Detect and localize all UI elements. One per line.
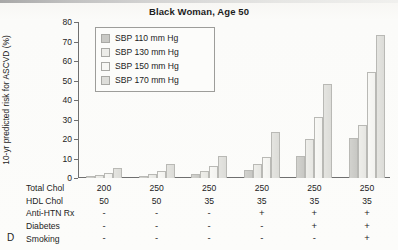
legend-swatch-icon: [101, 76, 110, 85]
legend-swatch-icon: [101, 62, 110, 71]
legend-item-label: SBP 170 mm Hg: [115, 75, 179, 85]
table-cell: -: [208, 220, 211, 233]
table-cell: -: [260, 232, 263, 245]
x-axis-line: [78, 177, 390, 178]
covariate-table: Total Chol200250250250250250HDL Chol5050…: [0, 182, 398, 245]
y-tick-label: 80: [63, 17, 72, 27]
y-axis-label: 10-yr predicted risk for ASCVD (%): [1, 25, 12, 175]
table-cell: 35: [310, 195, 320, 208]
table-cell: +: [364, 220, 370, 233]
y-tick-label: 10: [63, 154, 72, 164]
legend-item-label: SBP 130 mm Hg: [115, 47, 179, 57]
bar-group: [349, 22, 385, 178]
table-row-cells: -----+: [78, 232, 398, 245]
y-tick-mark: [74, 61, 78, 62]
bar: [253, 164, 262, 178]
legend-item[interactable]: SBP 130 mm Hg: [101, 45, 209, 59]
bar: [148, 174, 157, 178]
bar: [157, 171, 166, 178]
legend-item[interactable]: SBP 110 mm Hg: [101, 31, 209, 45]
table-row: HDL Chol505035353535: [0, 195, 398, 208]
y-tick-label: 30: [63, 115, 72, 125]
table-cell: 50: [152, 195, 162, 208]
y-tick-mark: [74, 120, 78, 121]
panel-letter: D: [7, 232, 14, 243]
table-row: Anti-HTN Rx---+++: [0, 207, 398, 220]
bar-group: [296, 22, 332, 178]
table-cell: +: [312, 207, 318, 220]
table-row-cells: 505035353535: [78, 195, 398, 208]
bar: [139, 176, 148, 178]
y-tick-mark: [74, 22, 78, 23]
table-cell: -: [155, 232, 158, 245]
table-row-label: Diabetes: [0, 221, 78, 231]
table-cell: -: [102, 220, 105, 233]
table-row-label: HDL Chol: [0, 196, 78, 206]
bar: [218, 156, 227, 178]
y-tick-label: 40: [63, 95, 72, 105]
y-tick-label: 60: [63, 56, 72, 66]
table-cell: 250: [360, 182, 374, 195]
bar-group: [244, 22, 280, 178]
y-tick-label: 70: [63, 37, 72, 47]
bar: [367, 72, 376, 178]
table-cell: +: [312, 220, 318, 233]
table-cell: 250: [149, 182, 163, 195]
legend-item-label: SBP 150 mm Hg: [115, 61, 179, 71]
y-tick-mark: [74, 178, 78, 179]
table-cell: -: [260, 220, 263, 233]
y-tick-mark: [74, 159, 78, 160]
bar: [323, 84, 332, 178]
chart-title: Black Woman, Age 50: [0, 6, 398, 17]
legend-item-label: SBP 110 mm Hg: [115, 33, 178, 43]
y-axis-line: [78, 22, 79, 178]
bar: [376, 35, 385, 178]
bar: [166, 164, 175, 178]
table-cell: +: [364, 232, 370, 245]
table-row-cells: ----++: [78, 220, 398, 233]
y-tick-label: 20: [63, 134, 72, 144]
bar: [104, 173, 113, 178]
bar: [191, 174, 200, 178]
bar: [244, 170, 253, 178]
table-cell: -: [155, 220, 158, 233]
table-cell: -: [102, 207, 105, 220]
table-cell: +: [259, 207, 265, 220]
bar: [349, 138, 358, 178]
table-cell: -: [208, 207, 211, 220]
bar: [262, 157, 271, 178]
table-cell: -: [155, 207, 158, 220]
table-cell: 250: [255, 182, 269, 195]
bar: [271, 132, 280, 178]
figure-panel: Black Woman, Age 50 10-yr predicted risk…: [0, 0, 398, 250]
legend-item[interactable]: SBP 150 mm Hg: [101, 59, 209, 73]
table-row-label: Anti-HTN Rx: [0, 208, 78, 218]
legend-swatch-icon: [101, 34, 110, 43]
table-row: Total Chol200250250250250250: [0, 182, 398, 195]
table-cell: -: [102, 232, 105, 245]
y-tick-mark: [74, 81, 78, 82]
y-tick-mark: [74, 42, 78, 43]
bar: [305, 139, 314, 178]
legend-item[interactable]: SBP 170 mm Hg: [101, 73, 209, 87]
bar: [95, 175, 104, 178]
table-row: Diabetes----++: [0, 220, 398, 233]
y-tick-mark: [74, 139, 78, 140]
table-cell: 200: [97, 182, 111, 195]
table-row-cells: 200250250250250250: [78, 182, 398, 195]
table-row-label: Total Chol: [0, 183, 78, 193]
bar: [209, 166, 218, 178]
table-cell: 35: [204, 195, 214, 208]
bar: [314, 117, 323, 178]
table-row: Smoking-----+: [0, 232, 398, 245]
legend: SBP 110 mm HgSBP 130 mm HgSBP 150 mm HgS…: [95, 27, 215, 92]
scan-artifact-edge: [0, 0, 398, 3]
bar: [200, 171, 209, 178]
y-tick-label: 50: [63, 76, 72, 86]
table-row-cells: ---+++: [78, 207, 398, 220]
table-cell: -: [313, 232, 316, 245]
table-cell: 250: [307, 182, 321, 195]
table-cell: 35: [362, 195, 372, 208]
bar: [296, 156, 305, 178]
legend-swatch-icon: [101, 48, 110, 57]
